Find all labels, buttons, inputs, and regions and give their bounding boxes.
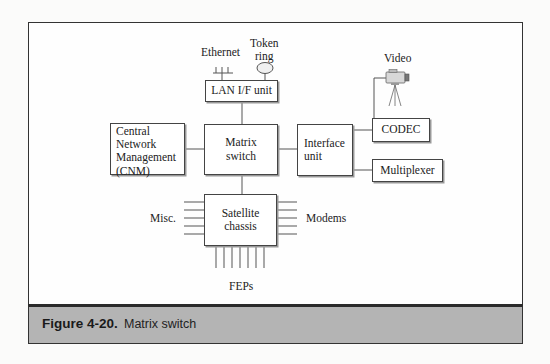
video-label: Video	[384, 52, 411, 65]
video-camera-icon	[386, 70, 409, 107]
modems-label: Modems	[306, 212, 346, 225]
misc-label: Misc.	[150, 212, 176, 225]
satellite-chassis-label-line1: Satellite	[222, 207, 260, 220]
token-ring-label-line1: Token	[250, 37, 279, 50]
ethernet-bus-icon	[213, 67, 233, 80]
satellite-chassis-label-line2: chassis	[222, 220, 260, 233]
satellite-chassis-box: Satellite chassis	[204, 194, 277, 246]
token-ring-icon	[257, 63, 273, 81]
cnm-label-line4: (CNM)	[116, 165, 176, 178]
cnm-label-line1: Central	[116, 125, 176, 138]
cnm-box: Central Network Management (CNM)	[110, 123, 185, 175]
lan-if-unit-box: LAN I/F unit	[205, 80, 278, 102]
token-ring-label-line2: ring	[250, 50, 279, 63]
codec-label: CODEC	[382, 123, 421, 136]
codec-box: CODEC	[372, 118, 430, 142]
lan-if-unit-label: LAN I/F unit	[211, 84, 272, 97]
interface-unit-label-line2: unit	[304, 150, 345, 163]
interface-unit-label-line1: Interface	[304, 137, 345, 150]
matrix-switch-box: Matrix switch	[204, 124, 278, 175]
feps-label: FEPs	[229, 280, 253, 293]
multiplexer-label: Multiplexer	[380, 164, 434, 177]
cnm-label-line2: Network	[116, 138, 176, 151]
figure-title: Matrix switch	[124, 317, 196, 331]
ethernet-label: Ethernet	[201, 46, 240, 59]
matrix-switch-label-line1: Matrix	[225, 136, 256, 149]
interface-unit-box: Interface unit	[297, 124, 353, 176]
cnm-label-line3: Management	[116, 151, 176, 164]
token-ring-label: Token ring	[250, 37, 279, 62]
figure-caption: Figure 4-20. Matrix switch	[28, 304, 523, 344]
multiplexer-box: Multiplexer	[372, 159, 443, 182]
matrix-switch-label-line2: switch	[225, 150, 256, 163]
figure-number: Figure 4-20.	[42, 316, 118, 331]
